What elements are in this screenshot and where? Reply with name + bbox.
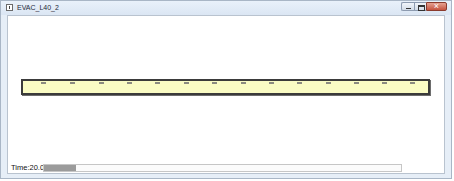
track-tick-mark (99, 82, 104, 84)
close-button[interactable] (426, 2, 447, 11)
progress-fill (44, 165, 76, 171)
corridor-track (21, 79, 430, 95)
caption-buttons (401, 2, 447, 12)
track-tick-mark (297, 82, 302, 84)
track-tick-mark (41, 82, 46, 84)
title-bar[interactable]: EVAC_L40_2 (1, 1, 451, 15)
track-tick-mark (70, 82, 75, 84)
track-tick-mark (155, 82, 160, 84)
status-bar: Time:20.0 (8, 163, 444, 173)
track-tick-mark (354, 82, 359, 84)
track-tick-mark (127, 82, 132, 84)
track-tick-mark (212, 82, 217, 84)
app-icon[interactable] (6, 4, 13, 11)
track-tick-mark (184, 82, 189, 84)
app-window: EVAC_L40_2 Time:20.0 (0, 0, 452, 179)
maximize-button[interactable] (414, 2, 426, 11)
track-tick-mark (241, 82, 246, 84)
simulation-canvas: Time:20.0 (7, 15, 445, 174)
time-label: Time:20.0 (11, 163, 44, 173)
time-progress-bar[interactable] (43, 164, 402, 172)
minimize-button[interactable] (401, 2, 414, 11)
track-tick-mark (269, 82, 274, 84)
track-tick-mark (326, 82, 331, 84)
window-title: EVAC_L40_2 (17, 3, 59, 13)
track-tick-mark (410, 82, 415, 84)
track-tick-mark (382, 82, 387, 84)
